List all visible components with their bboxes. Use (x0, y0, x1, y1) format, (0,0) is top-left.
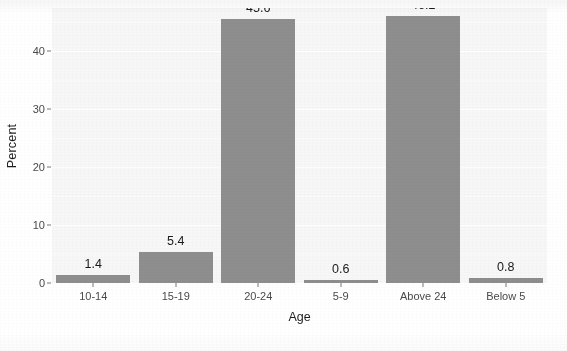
y-tick-mark (47, 109, 51, 110)
gridline-minor (52, 138, 547, 139)
bar (139, 252, 213, 283)
bar-value-label: 0.8 (497, 260, 514, 274)
y-tick-mark (47, 283, 51, 284)
gridline-minor (52, 254, 547, 255)
y-tick-label: 10 (33, 219, 45, 231)
x-axis-title: Age (52, 310, 547, 324)
x-tick-label: Below 5 (486, 290, 525, 302)
bar-value-label: 46.2 (411, 8, 435, 12)
bar-value-label: 45.6 (246, 8, 270, 15)
y-tick-label: 20 (33, 161, 45, 173)
x-tick-label: 5-9 (333, 290, 349, 302)
x-tick-label: Above 24 (400, 290, 446, 302)
bar-chart-figure: Percent 010203040 1.45.445.60.646.20.8 1… (0, 0, 567, 351)
y-tick-mark (47, 225, 51, 226)
y-axis-title-text: Percent (5, 123, 19, 167)
x-tick-label: 15-19 (162, 290, 190, 302)
y-tick-mark (47, 167, 51, 168)
bar (56, 275, 130, 283)
bar-value-label: 0.6 (332, 262, 349, 276)
x-tick-mark (175, 283, 176, 287)
x-tick-mark (423, 283, 424, 287)
y-axis-ticks: 010203040 (22, 0, 52, 351)
x-axis-ticks: 10-1415-1920-245-9Above 24Below 5 (52, 283, 547, 309)
gridline-major (52, 167, 547, 168)
gridline-major (52, 225, 547, 226)
x-tick-label: 10-14 (79, 290, 107, 302)
bar-value-label: 5.4 (167, 234, 184, 248)
gridline-minor (52, 196, 547, 197)
gridline-minor (52, 80, 547, 81)
bar (221, 19, 295, 283)
x-tick-mark (340, 283, 341, 287)
y-tick-label: 40 (33, 45, 45, 57)
plot-panel: 1.45.445.60.646.20.8 (52, 8, 547, 283)
gridline-major (52, 51, 547, 52)
x-tick-mark (93, 283, 94, 287)
bar (386, 16, 460, 283)
y-tick-label: 30 (33, 103, 45, 115)
x-tick-mark (505, 283, 506, 287)
bar-value-label: 1.4 (85, 257, 102, 271)
gridline-minor (52, 22, 547, 23)
gridline-major (52, 109, 547, 110)
x-tick-mark (258, 283, 259, 287)
y-axis-title: Percent (2, 0, 22, 291)
y-tick-mark (47, 51, 51, 52)
x-tick-label: 20-24 (244, 290, 272, 302)
y-tick-label: 0 (39, 277, 45, 289)
